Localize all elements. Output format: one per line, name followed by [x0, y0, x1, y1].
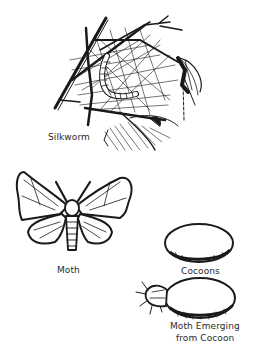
emerging-label-line1: Moth Emerging: [170, 321, 240, 331]
silkworm-life-cycle-illustration: Silkworm Moth: [0, 0, 256, 356]
emerging-moth-drawing: [0, 0, 256, 356]
emerging-label-line2: from Cocoon: [176, 333, 234, 343]
